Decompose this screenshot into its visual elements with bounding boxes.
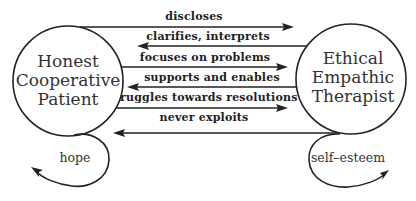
therapist-label-line-3: Therapist (312, 86, 395, 106)
edge-label: supports and enables (144, 71, 280, 84)
edge-label: discloses (165, 10, 222, 23)
loop-hope: hope (31, 134, 109, 186)
arrow-loop-icon (380, 170, 389, 180)
edge-never-exploits: never exploits (113, 111, 338, 137)
therapist-label-line-1: Ethical (323, 48, 384, 68)
node-patient: Honest Cooperative Patient (13, 26, 123, 136)
edge-supports-and-enables: supports and enables (127, 71, 298, 91)
therapist-label-line-2: Empathic (312, 67, 394, 87)
patient-therapist-diagram: discloses clarifies, interprets focuses … (0, 0, 416, 201)
patient-label-line-3: Patient (38, 89, 99, 109)
loop-label: self–esteem (311, 150, 385, 165)
edge-label: clarifies, interprets (146, 30, 270, 43)
edge-focuses-on-problems: focuses on problems (122, 51, 288, 71)
edge-label: struggles towards resolutions (108, 91, 297, 104)
loop-self-esteem: self–esteem (309, 134, 389, 187)
edge-clarifies-interprets: clarifies, interprets (137, 30, 310, 50)
edge-label: focuses on problems (140, 51, 270, 64)
edge-discloses: discloses (80, 10, 294, 31)
edge-struggles-towards-resolutions: struggles towards resolutions (108, 91, 297, 112)
patient-label-line-2: Cooperative (16, 70, 121, 90)
node-therapist: Ethical Empathic Therapist (296, 24, 406, 134)
patient-label-line-1: Honest (37, 51, 99, 71)
loop-label: hope (60, 150, 91, 165)
edge-label: never exploits (159, 111, 248, 124)
